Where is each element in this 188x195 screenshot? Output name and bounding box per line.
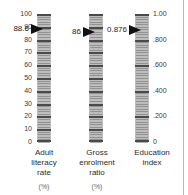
tick-label: .200 [153,112,183,119]
minor-tick [136,63,148,64]
minor-tick [38,122,50,123]
tick-label: 70 [0,48,32,55]
tick-label: 100 [0,10,32,17]
minor-tick [90,134,102,135]
major-tick [37,91,51,93]
tick-label: 0 [153,138,183,145]
minor-tick [136,142,148,143]
value-marker-gross-enrolment-ratio: 86 [62,27,95,37]
minor-tick [136,104,148,105]
value-label-gross-enrolment-ratio: 86 [72,28,81,36]
minor-tick [90,137,102,138]
major-tick [89,91,103,93]
caption-line: index [114,158,188,168]
minor-tick [136,37,148,38]
minor-tick [90,24,102,25]
major-tick [89,116,103,118]
tick-label: 60 [0,61,32,68]
caption-education-index: Education index [114,148,188,172]
value-label-education-index: 0.876 [107,26,127,34]
minor-tick [90,86,102,87]
tick-label: 20 [0,112,32,119]
minor-tick [38,101,50,102]
minor-tick [90,81,102,82]
major-tick [37,129,51,131]
minor-tick [90,119,102,120]
minor-tick [90,58,102,59]
minor-tick [38,83,50,84]
minor-tick [38,60,50,61]
minor-tick [90,114,102,115]
minor-tick [136,86,148,87]
tick-label: 10 [0,125,32,132]
tick-label: .800 [153,36,183,43]
minor-tick [136,52,148,53]
minor-tick [90,75,102,76]
minor-tick [136,83,148,84]
minor-tick [136,124,148,125]
minor-tick [38,42,50,43]
tick-label: 80 [0,36,32,43]
minor-tick [136,119,148,120]
major-tick [89,78,103,80]
minor-tick [90,98,102,99]
minor-tick [136,88,148,89]
minor-tick [136,42,148,43]
minor-tick [136,122,148,123]
minor-tick [136,68,148,69]
minor-tick [136,111,148,112]
minor-tick [90,109,102,110]
minor-tick [38,68,50,69]
minor-tick [90,127,102,128]
major-tick [135,65,149,67]
minor-tick [38,19,50,20]
major-tick [37,116,51,118]
major-tick [37,52,51,54]
minor-tick [136,47,148,48]
minor-tick [90,50,102,51]
major-tick [37,140,51,142]
minor-tick [136,70,148,71]
major-tick [89,14,103,16]
tick-label: 1.00 [153,10,183,17]
minor-tick [136,137,148,138]
minor-tick [136,101,148,102]
minor-tick [90,42,102,43]
minor-tick [38,127,50,128]
minor-tick [38,111,50,112]
major-tick [135,14,149,16]
tick-label: 0 [0,138,32,145]
major-tick [37,65,51,67]
minor-tick [136,98,148,99]
minor-tick [136,114,148,115]
minor-tick [90,60,102,61]
minor-tick [90,111,102,112]
major-tick [89,52,103,54]
minor-tick [136,22,148,23]
major-tick [89,129,103,131]
minor-tick [136,17,148,18]
major-tick [89,140,103,142]
minor-tick [136,106,148,107]
minor-tick [38,134,50,135]
minor-tick [136,109,148,110]
minor-tick [38,70,50,71]
minor-tick [136,73,148,74]
minor-tick [90,142,102,143]
minor-tick [90,19,102,20]
minor-tick [90,101,102,102]
education-indicator-scales: 1009080706050403020100 88.6 Adult litera… [0,0,188,195]
minor-tick [38,34,50,35]
minor-tick [136,45,148,46]
minor-tick [90,124,102,125]
tick-label: 50 [0,74,32,81]
minor-tick [136,132,148,133]
value-marker-adult-literacy-rate: 88.6 [0,24,43,34]
minor-tick [90,96,102,97]
minor-tick [38,119,50,120]
major-tick [89,104,103,106]
tick-label: 30 [0,100,32,107]
major-tick [37,40,51,42]
minor-tick [90,106,102,107]
minor-tick [38,50,50,51]
